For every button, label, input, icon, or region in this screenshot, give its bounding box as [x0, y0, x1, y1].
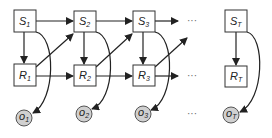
node-ot: oT	[223, 107, 239, 123]
edge-r2-s3	[96, 34, 132, 67]
node-st: ST	[225, 10, 247, 32]
node-rt: RT	[225, 66, 247, 87]
node-s2: S2	[74, 11, 96, 32]
node-o1: o1	[16, 110, 32, 126]
edge-r1-s2	[36, 34, 73, 67]
edge-r3-next	[155, 38, 187, 67]
node-o2: o2	[76, 106, 92, 122]
diagram-canvas: S1 S2 S3 ST R1 R2 R3 RT o1 o2 o3	[0, 0, 272, 138]
ellipsis-rewards: ···	[187, 70, 197, 81]
ellipsis-states: ···	[187, 15, 197, 26]
node-r1: R1	[14, 64, 36, 86]
node-r2: R2	[74, 65, 96, 86]
node-r3: R3	[133, 65, 155, 86]
node-s3: S3	[133, 11, 155, 32]
ellipsis-observations: ···	[187, 108, 197, 119]
node-s1: S1	[14, 10, 36, 32]
node-o3: o3	[135, 106, 151, 122]
